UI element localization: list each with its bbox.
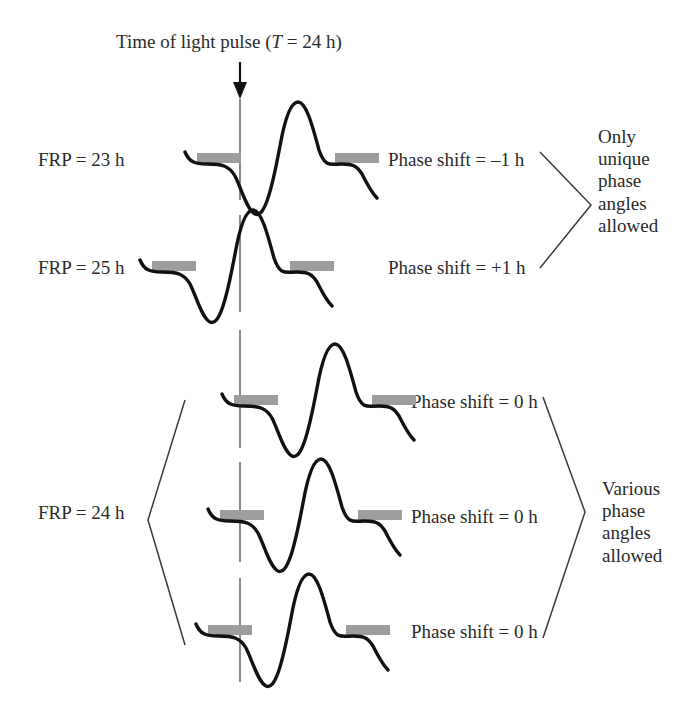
brace-right-unique — [540, 152, 591, 268]
waveform-row-3 — [222, 344, 416, 456]
waveform-row-1 — [185, 102, 379, 214]
brace-shape — [540, 152, 591, 268]
activity-bar-first — [208, 625, 252, 635]
arrow-head-icon — [233, 82, 247, 99]
brace-left-various — [148, 400, 185, 645]
activity-bar-second — [290, 261, 334, 271]
brace-shape — [148, 400, 185, 645]
waveform-row-4 — [208, 459, 402, 571]
circadian-phase-shift-figure: Time of light pulse (T = 24 h) FRP = 23 … — [0, 0, 698, 722]
diagram-graphics — [0, 0, 698, 722]
activity-bar-first — [220, 510, 264, 520]
waveform-row-2 — [140, 210, 334, 322]
waveform-group — [140, 102, 416, 686]
activity-bar-first — [197, 153, 241, 163]
activity-bar-first — [152, 261, 196, 271]
activity-bar-first — [234, 395, 278, 405]
activity-bar-second — [346, 625, 390, 635]
activity-bar-second — [372, 395, 416, 405]
light-pulse-arrow — [233, 62, 247, 99]
waveform-row-5 — [196, 574, 390, 686]
activity-bar-second — [335, 153, 379, 163]
activity-bar-second — [358, 510, 402, 520]
brace-shape — [543, 397, 585, 638]
brace-right-various — [543, 397, 585, 638]
